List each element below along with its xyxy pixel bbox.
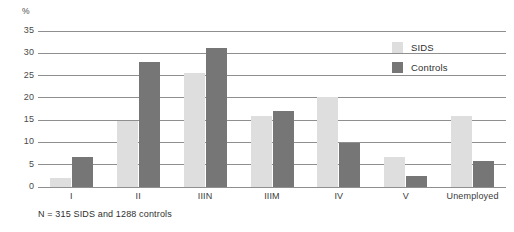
y-axis-tick-label: 15 [4,114,34,124]
chart-footnote: N = 315 SIDS and 1288 controls [38,209,172,219]
bar-controls [339,143,360,187]
x-axis-tick-label: II [105,191,172,201]
bar-sids [384,157,405,187]
y-axis-tick-label: 30 [4,47,34,57]
bar-group [50,31,93,187]
chart-legend: SIDS Controls [392,40,502,80]
legend-swatch-sids-icon [392,42,403,53]
bar-controls [206,48,227,187]
x-axis-tick-label: IV [305,191,372,201]
x-axis-tick-label: I [38,191,105,201]
y-axis-tick-label: 0 [4,181,34,191]
bar-controls [273,111,294,187]
y-axis-tick-label: 20 [4,92,34,102]
bar-controls [473,161,494,187]
legend-item-controls: Controls [392,60,502,75]
y-axis-tick-label: 25 [4,70,34,80]
y-axis-tick-label: 5 [4,159,34,169]
bar-sids [251,116,272,187]
bar-group [184,31,227,187]
bar-sids [117,121,138,187]
bar-controls [139,62,160,187]
bar-sids [451,116,472,187]
bar-group [117,31,160,187]
bar-sids [317,97,338,187]
y-axis-unit-label: % [22,6,30,16]
y-axis-tick-label: 10 [4,136,34,146]
x-axis-tick-label: Unemployed [439,191,506,201]
x-axis-tick-label: IIIM [239,191,306,201]
x-axis-tick-label: V [372,191,439,201]
bar-controls [72,157,93,187]
bar-sids [184,73,205,187]
bar-controls [406,176,427,187]
x-axis-tick-label: IIIN [172,191,239,201]
legend-swatch-controls-icon [392,62,403,73]
bar-group [251,31,294,187]
bar-chart-figure: % SIDS Controls N = 315 SIDS and 1288 co… [0,0,514,232]
y-axis-tick-label: 35 [4,25,34,35]
bar-group [317,31,360,187]
legend-item-sids: SIDS [392,40,502,55]
legend-label-sids: SIDS [411,42,434,53]
legend-label-controls: Controls [411,62,448,73]
bar-sids [50,178,71,187]
